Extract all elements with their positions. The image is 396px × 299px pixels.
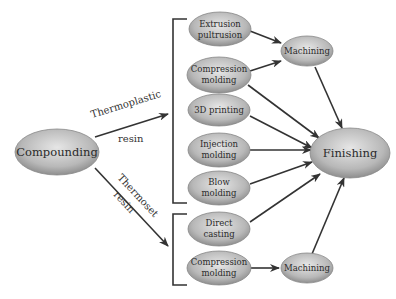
thermoplastic-label: Thermoplastic — [89, 88, 162, 120]
svg-text:3D printing: 3D printing — [194, 105, 244, 115]
svg-text:Blow: Blow — [208, 177, 230, 187]
edge-machining-finishing — [315, 67, 342, 128]
edge-3dprinting-finishing — [250, 116, 312, 148]
svg-text:Compression: Compression — [191, 64, 248, 74]
edge-direct-finishing — [250, 174, 320, 222]
node-finishing: Finishing — [310, 128, 390, 178]
edge-compression-finishing — [248, 85, 319, 138]
svg-text:Compounding: Compounding — [16, 145, 98, 159]
node-compounding: Compounding — [15, 129, 99, 175]
svg-text:Machining: Machining — [284, 263, 330, 273]
node-machining-top: Machining — [281, 36, 333, 66]
svg-text:Compression: Compression — [191, 257, 248, 267]
svg-text:casting: casting — [203, 229, 235, 239]
svg-text:Direct: Direct — [206, 218, 233, 228]
edge-compression-machining — [250, 61, 281, 71]
edge-extrusion-machining — [250, 31, 281, 43]
svg-text:molding: molding — [202, 188, 238, 198]
svg-text:molding: molding — [202, 75, 238, 85]
manufacturing-process-diagram: Thermoplastic resin Thermoset resin Comp… — [0, 0, 396, 299]
svg-text:molding: molding — [202, 268, 238, 278]
svg-text:pultrusion: pultrusion — [198, 30, 243, 40]
svg-text:Injection: Injection — [200, 139, 239, 149]
node-3d-printing: 3D printing — [188, 94, 250, 126]
svg-text:Machining: Machining — [284, 46, 330, 56]
thermoplastic-resin-label: resin — [118, 133, 144, 144]
svg-text:Finishing: Finishing — [323, 146, 378, 160]
node-blow-molding: Blow molding — [188, 171, 250, 205]
node-machining-bottom: Machining — [281, 253, 333, 283]
node-compression-molding-thermoplastic: Compression molding — [187, 57, 251, 93]
svg-text:Extrusion: Extrusion — [199, 19, 241, 29]
thermoset-bracket — [173, 214, 187, 285]
thermoplastic-bracket — [173, 19, 187, 203]
edge-blow-finishing — [250, 162, 312, 184]
svg-text:molding: molding — [202, 150, 238, 160]
node-extrusion-pultrusion: Extrusion pultrusion — [189, 12, 251, 46]
node-injection-molding: Injection molding — [188, 133, 250, 167]
edge-machining-bottom-finishing — [312, 178, 344, 254]
node-direct-casting: Direct casting — [188, 212, 250, 246]
node-compression-molding-thermoset: Compression molding — [187, 251, 251, 285]
